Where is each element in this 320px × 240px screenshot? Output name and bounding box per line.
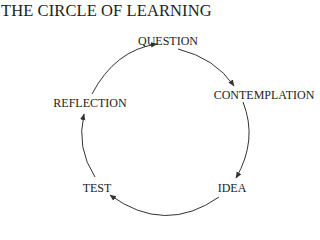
node-contemplation: CONTEMPLATION (214, 88, 315, 103)
node-reflection: REFLECTION (53, 96, 126, 111)
arrow-contemplation-to-idea (236, 102, 249, 178)
node-test: TEST (83, 181, 112, 196)
arrow-question-to-contemplation (178, 49, 234, 86)
arrow-test-to-reflection (82, 114, 95, 177)
arrow-reflection-to-question (92, 44, 157, 94)
node-question: QUESTION (138, 34, 198, 49)
node-idea: IDEA (218, 181, 247, 196)
arrow-idea-to-test (110, 195, 219, 216)
